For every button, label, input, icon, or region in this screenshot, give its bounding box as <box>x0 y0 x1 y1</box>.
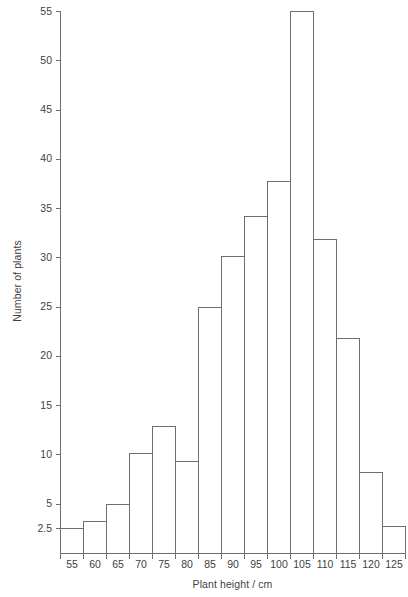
histogram-bar <box>314 239 337 553</box>
y-tick-label: 50 <box>8 55 52 66</box>
histogram-bar <box>268 182 291 554</box>
histogram-bar <box>199 307 222 553</box>
histogram-bar <box>61 529 84 554</box>
histogram-bar <box>84 522 107 554</box>
y-tick-label: 45 <box>8 104 52 115</box>
histogram-chart: 2.5510152025303540455055 556065707580859… <box>0 0 408 597</box>
histogram-bar <box>245 216 268 553</box>
y-tick-label: 40 <box>8 153 52 164</box>
histogram-bar <box>153 426 176 553</box>
y-axis-title: Number of plants <box>11 206 23 356</box>
histogram-bar <box>291 12 314 554</box>
y-tick-label: 10 <box>8 449 52 460</box>
plot-area <box>0 0 408 597</box>
histogram-bar <box>176 462 199 554</box>
bars-group <box>61 12 406 554</box>
histogram-bar <box>383 527 406 554</box>
histogram-bar <box>360 473 383 554</box>
histogram-bar <box>130 454 153 554</box>
histogram-bar <box>337 339 360 554</box>
x-axis-title: Plant height / cm <box>60 578 405 590</box>
y-tick-label: 55 <box>8 6 52 17</box>
y-tick-label: 2.5 <box>8 523 52 534</box>
histogram-bar <box>107 504 130 553</box>
y-tick-label: 15 <box>8 400 52 411</box>
x-tick-label: 125 <box>379 559 408 570</box>
y-tick-label: 5 <box>8 498 52 509</box>
histogram-bar <box>222 257 245 554</box>
